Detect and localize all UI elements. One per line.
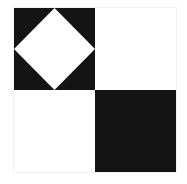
diamond-icon	[14, 8, 95, 90]
diamond-shape	[14, 8, 95, 90]
quadrant-top-right	[95, 8, 176, 90]
quadrant-bottom-right	[95, 90, 176, 172]
quadrant-bottom-left	[14, 90, 95, 172]
checkerboard-figure	[14, 8, 176, 172]
quadrant-top-left	[14, 8, 95, 90]
figure-canvas	[0, 0, 187, 184]
